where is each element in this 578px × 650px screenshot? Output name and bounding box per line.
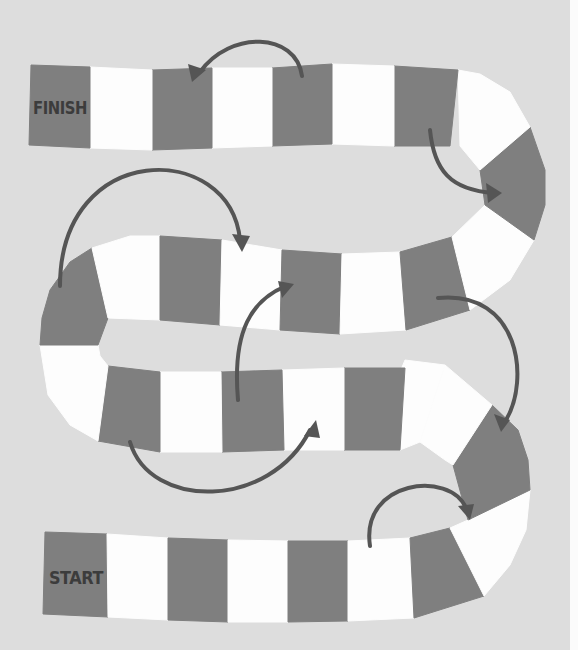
board-square	[107, 534, 168, 620]
board-square	[348, 538, 414, 621]
board-square	[340, 252, 406, 334]
board-square	[40, 345, 108, 441]
board-square	[90, 67, 152, 150]
board-square	[228, 540, 288, 622]
tiles-layer	[29, 64, 545, 622]
board-square	[168, 538, 228, 622]
start-label: START	[49, 568, 104, 588]
board-square	[160, 372, 222, 452]
board-square	[98, 366, 160, 452]
board-square	[288, 541, 348, 622]
board-square	[212, 68, 272, 148]
board-square	[394, 66, 458, 146]
board-square	[344, 368, 405, 450]
board-square	[332, 64, 394, 146]
board-square	[152, 68, 212, 150]
board-square	[282, 368, 344, 450]
finish-label: FINISH	[33, 98, 87, 118]
board-square	[221, 370, 284, 452]
board-square	[160, 236, 222, 325]
board-square	[280, 250, 342, 334]
game-board: FINISH START	[0, 0, 578, 650]
